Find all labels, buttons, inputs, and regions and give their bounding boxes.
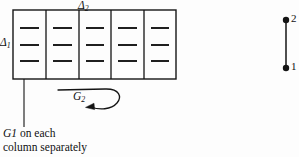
edge-graph xyxy=(283,17,289,71)
column-dashes xyxy=(20,28,169,61)
caption-line-1-rest: on each xyxy=(17,127,55,139)
label-delta-2-base: Δ xyxy=(78,0,85,11)
label-delta-1: Δ1 xyxy=(0,37,11,50)
label-delta-1-subscript: 1 xyxy=(7,41,11,50)
node-dot-top xyxy=(283,17,289,23)
node-label-bottom: 1 xyxy=(291,61,297,72)
rotation-arrowhead xyxy=(86,103,95,109)
label-g-2-subscript: 2 xyxy=(81,95,85,104)
node-dot-bottom xyxy=(283,65,289,71)
caption-line-2: column separately xyxy=(3,140,87,154)
figure-canvas: Δ2 Δ1 G2 G1 on each column separately 2 … xyxy=(0,0,299,157)
label-g-2: G2 xyxy=(73,91,85,104)
caption: G1 on each column separately xyxy=(3,126,87,155)
node-label-top: 2 xyxy=(291,13,297,24)
label-delta-2-subscript: 2 xyxy=(85,4,89,13)
label-delta-2: Δ2 xyxy=(78,0,89,13)
label-delta-1-base: Δ xyxy=(0,36,7,48)
caption-line-1: G1 on each xyxy=(3,126,87,140)
